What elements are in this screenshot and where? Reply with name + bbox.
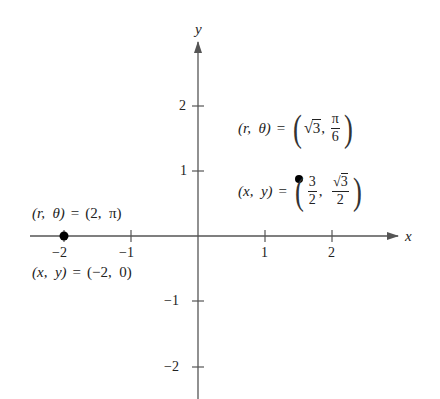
point-b-polar-label: (r, θ) = ( √ 3 , π 6 ) — [238, 109, 354, 147]
polar-rhs: (2, π) — [85, 205, 121, 222]
equals-sign: = — [277, 120, 285, 137]
equals-sign: = — [73, 264, 81, 281]
polar-lhs: (r, θ) — [32, 205, 65, 222]
radicand: 3 — [312, 119, 322, 137]
comma: , — [321, 120, 329, 137]
comma: , — [319, 183, 330, 200]
y-tick-label: −2 — [164, 360, 179, 374]
fraction-pi-over-6: π 6 — [331, 112, 340, 144]
fraction-sqrt3-over-2: √3 2 — [332, 175, 349, 207]
denominator: 2 — [337, 192, 344, 208]
y-tick-label: −1 — [164, 294, 179, 308]
y-tick-label: 1 — [180, 164, 187, 178]
polar-lhs: (r, θ) — [238, 120, 271, 137]
x-axis-label: x — [405, 229, 412, 244]
right-paren: ) — [344, 109, 353, 147]
x-tick-label: −2 — [52, 246, 67, 260]
equals-sign: = — [71, 205, 79, 222]
rect-rhs: (−2, 0) — [87, 264, 132, 281]
point-a-rect-label: (x, y) = (−2, 0) — [32, 264, 132, 281]
x-tick-label: 1 — [261, 246, 268, 260]
coordinate-plane — [0, 0, 440, 399]
numerator: π — [331, 112, 340, 129]
point-a-dot — [60, 232, 69, 241]
point-a-polar-label: (r, θ) = (2, π) — [32, 205, 122, 222]
denominator: 2 — [309, 192, 316, 208]
fraction-3-over-2: 3 2 — [308, 175, 317, 207]
numerator: 3 — [308, 175, 317, 192]
radical-sign: √ — [333, 174, 341, 189]
radicand: 3 — [341, 173, 348, 189]
denominator: 6 — [332, 129, 339, 145]
sqrt-expression: √ 3 — [304, 119, 321, 137]
numerator: √3 — [332, 175, 349, 192]
left-paren: ( — [293, 109, 302, 147]
y-axis-label: y — [195, 22, 202, 37]
y-tick-label: 2 — [179, 99, 186, 113]
rect-lhs: (x, y) — [32, 264, 67, 281]
rect-lhs: (x, y) — [238, 183, 273, 200]
x-tick-label: −1 — [119, 246, 134, 260]
left-paren: ( — [295, 172, 304, 210]
right-paren: ) — [353, 172, 362, 210]
x-tick-label: 2 — [328, 246, 335, 260]
equals-sign: = — [279, 183, 287, 200]
point-b-rect-label: (x, y) = ( 3 2 , √3 2 ) — [238, 172, 363, 210]
